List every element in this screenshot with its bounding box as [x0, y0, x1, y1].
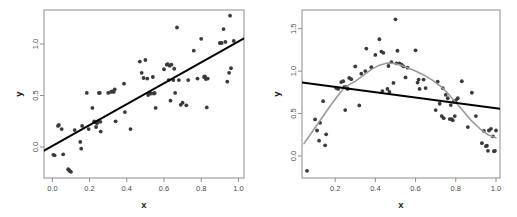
data-point [205, 106, 209, 110]
data-point [140, 71, 144, 75]
data-point [151, 75, 155, 79]
plot-frame [302, 10, 500, 178]
x-axis-title: x [398, 199, 404, 210]
data-point [228, 14, 232, 18]
y-tick-label: 0.5 [290, 108, 299, 118]
data-point [145, 77, 149, 81]
data-point [220, 41, 224, 45]
data-point [229, 66, 233, 70]
data-point [79, 147, 83, 151]
data-point [480, 141, 484, 145]
data-point [138, 60, 142, 64]
data-point [154, 106, 158, 110]
data-point [181, 101, 185, 105]
data-point [341, 79, 345, 83]
data-point [169, 99, 173, 103]
data-point [196, 77, 200, 81]
data-point [142, 76, 146, 80]
data-point [493, 149, 497, 153]
data-point [173, 91, 177, 95]
data-point [224, 40, 228, 44]
data-point [466, 125, 470, 129]
data-point [153, 91, 157, 95]
data-point [317, 139, 321, 143]
data-point [144, 58, 148, 62]
data-point [177, 78, 181, 82]
data-point [90, 106, 94, 110]
x-tick-label: 0.0 [47, 184, 57, 193]
data-point [414, 48, 418, 52]
data-point [80, 124, 84, 128]
x-tick-label: 0.2 [84, 184, 94, 193]
data-point [315, 129, 319, 133]
data-point [175, 26, 179, 30]
x-tick-label: 0.2 [330, 184, 340, 193]
data-point [470, 91, 474, 95]
y-axis-title: y [13, 91, 24, 97]
data-point [186, 78, 190, 82]
y-axis-title: y [271, 91, 282, 97]
data-point [364, 47, 368, 51]
data-point [324, 132, 328, 136]
data-point [474, 114, 478, 118]
data-point [323, 143, 327, 147]
data-point [418, 87, 422, 91]
right-scatter-plot: 0.20.40.60.81.00.00.51.01.5xy [258, 0, 517, 217]
x-tick-label: 1.0 [233, 184, 243, 193]
data-point [321, 99, 325, 103]
data-point [222, 27, 226, 31]
y-tick-label: 1.0 [32, 39, 41, 49]
data-point [172, 67, 176, 71]
data-point [349, 77, 353, 81]
data-point [199, 37, 203, 41]
data-point [453, 114, 457, 118]
data-point [87, 127, 91, 131]
chart-panel-left: 0.00.20.40.60.81.00.00.51.0xy [0, 0, 259, 217]
data-point [377, 37, 381, 41]
data-layer [44, 14, 244, 174]
data-point [73, 128, 77, 132]
loess-smooth-curve [304, 63, 496, 144]
data-point [227, 71, 231, 75]
data-point [305, 169, 309, 173]
data-point [394, 17, 398, 21]
data-point [192, 49, 196, 53]
data-point [78, 140, 82, 144]
data-point [449, 103, 453, 107]
y-tick-label: 0.5 [32, 90, 41, 100]
data-point [61, 152, 65, 156]
data-point [98, 91, 102, 95]
data-point [85, 91, 89, 95]
data-point [373, 53, 377, 57]
data-layer [302, 17, 500, 172]
data-point [113, 87, 117, 91]
x-tick-label: 0.8 [451, 184, 461, 193]
data-point [162, 67, 166, 71]
data-point [69, 170, 73, 174]
data-point [486, 149, 490, 153]
data-point [225, 80, 229, 84]
data-point [382, 51, 386, 55]
data-point [442, 116, 446, 120]
data-point [424, 86, 428, 90]
x-tick-label: 0.6 [410, 184, 420, 193]
x-tick-label: 0.4 [370, 184, 380, 193]
data-point [451, 118, 455, 122]
data-point [122, 82, 126, 86]
x-tick-label: 0.6 [159, 184, 169, 193]
data-point [396, 49, 400, 53]
data-point [417, 78, 421, 82]
y-tick-label: 0.0 [32, 142, 41, 152]
data-point [114, 119, 118, 123]
figure-container: 0.00.20.40.60.81.00.00.51.0xy 0.20.40.60… [0, 0, 517, 217]
data-point [94, 125, 98, 129]
linear-fit-line [44, 38, 244, 150]
data-point [123, 110, 127, 114]
data-point [99, 130, 103, 134]
data-point [446, 96, 450, 100]
data-point [494, 129, 498, 133]
data-point [129, 127, 133, 131]
data-point [456, 96, 460, 100]
data-point [60, 127, 64, 131]
data-point [489, 127, 493, 131]
